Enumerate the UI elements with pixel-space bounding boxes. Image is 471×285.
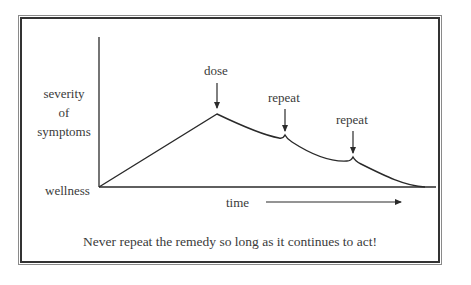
severity-curve — [99, 114, 425, 187]
repeat-label: repeat — [268, 90, 300, 105]
baseline-label: wellness — [45, 183, 90, 198]
x-axis-label: time — [226, 195, 249, 210]
y-axis-label: severity of symptoms — [33, 84, 95, 141]
y-axis-label-line: symptoms — [33, 122, 95, 141]
dose-label: dose — [204, 63, 228, 78]
y-axis-label-line: severity — [33, 84, 95, 103]
caption: Never repeat the remedy so long as it co… — [20, 234, 440, 249]
y-axis-label-line: of — [33, 103, 95, 122]
repeat-label: repeat — [336, 112, 368, 127]
